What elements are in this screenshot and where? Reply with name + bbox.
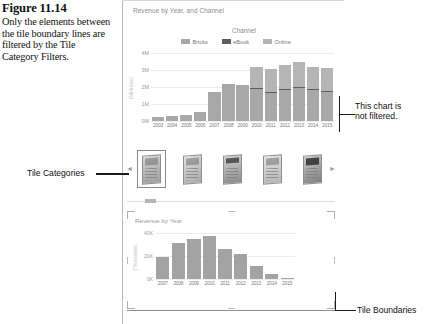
chart-top-bar-segment-bricks — [279, 90, 291, 121]
chart-top-bar-segment-bricks — [166, 116, 178, 121]
chart-top-gridline — [151, 121, 334, 122]
annotation-tile-boundaries: Tile Boundaries — [357, 305, 416, 315]
legend-swatch-bricks — [181, 39, 190, 44]
chart-top-bar[interactable] — [166, 53, 178, 121]
dashboard-panel: Revenue by Year, and Channel Channel Bri… — [123, 1, 339, 322]
chart-top-bar[interactable] — [265, 53, 277, 121]
chart-bottom-x-ticks: 200720082009201020112012201320142015 — [155, 281, 295, 286]
chart-bottom-bar[interactable] — [234, 233, 247, 279]
chart-top-bar-segment-bricks — [152, 117, 164, 121]
chart-bottom-y-ticks: 0K20K40K — [137, 233, 153, 279]
tile-edge-tick-right — [334, 257, 335, 264]
legend-swatch-ebook — [222, 39, 231, 44]
tile-thumbnail-4[interactable] — [259, 152, 285, 186]
chart-bottom-bar[interactable] — [218, 233, 231, 279]
chart-top-bar[interactable] — [293, 53, 305, 121]
chart-top-x-tick: 2005 — [179, 123, 193, 128]
chart-bottom-bar[interactable] — [156, 233, 169, 279]
chart-bottom-y-tick: 0K — [147, 276, 153, 282]
chart-top-bar[interactable] — [321, 53, 333, 121]
tile-thumbnail-2[interactable] — [180, 152, 206, 186]
leader-line-tile-categories — [96, 173, 129, 175]
chart-top-bar[interactable] — [180, 53, 192, 121]
chart-bottom-y-tick: 40K — [144, 230, 153, 236]
annotation-tile-categories: Tile Categories — [27, 168, 84, 178]
chart-top-y-tick: 3M — [142, 67, 150, 73]
scrollbar-thumb[interactable] — [145, 199, 156, 203]
figure-caption-block: Figure 11.14 Only the elements between t… — [2, 1, 112, 62]
chart-top-bar-segment-bricks — [236, 85, 248, 121]
chart-top-x-tick: 2015 — [320, 123, 334, 128]
chart-top-bar[interactable] — [250, 53, 262, 121]
chart-bottom-bar-fill — [218, 249, 231, 279]
leader-line-not-filtered-h — [339, 114, 355, 115]
chart-top-plot: (Millions) 0M1M2M3M4M 200320042005200620… — [123, 53, 339, 137]
chart-top-x-tick: 2006 — [193, 123, 207, 128]
chart-top-bar-segment-online — [279, 65, 291, 89]
chart-bottom-y-tick: 20K — [144, 253, 153, 259]
chart-top-bars — [151, 53, 334, 121]
chart-top-bar[interactable] — [222, 53, 234, 121]
chart-top-x-tick: 2012 — [278, 123, 292, 128]
chart-revenue-by-year: Revenue by Year (Thousands) 0K20K40K 200… — [129, 215, 329, 303]
chart-top-y-tick: 0M — [142, 118, 150, 124]
chart-top-bar-segment-bricks — [222, 84, 234, 121]
chart-bottom-bar[interactable] — [281, 233, 294, 279]
chart-top-bar[interactable] — [208, 53, 220, 121]
tile-edge-tick-left — [127, 257, 128, 264]
chart-bottom-bar[interactable] — [172, 233, 185, 279]
legend-label-bricks: Bricks — [193, 39, 208, 45]
figure-caption-text: Only the elements between the tile bound… — [2, 16, 112, 62]
figure-page: Figure 11.14 Only the elements between t… — [0, 0, 447, 324]
tile-strip-scrollbar[interactable] — [127, 199, 335, 203]
prev-arrow-icon[interactable]: ◄ — [126, 165, 133, 172]
annotation-line-1: This chart is — [355, 101, 401, 111]
leader-line-not-filtered-v — [339, 96, 340, 132]
chart-top-bar[interactable] — [279, 53, 291, 121]
tile-category-filter-strip[interactable]: ◄ ► — [123, 143, 339, 195]
chart-bottom-bar[interactable] — [203, 233, 216, 279]
annotation-chart-not-filtered: This chart is not filtered. — [355, 101, 447, 121]
chart-top-bar-segment-online — [307, 67, 319, 90]
chart-bottom-x-tick: 2011 — [217, 281, 233, 286]
chart-top-bar[interactable] — [152, 53, 164, 121]
chart-top-bar-segment-online — [293, 62, 305, 88]
chart-bottom-bar-fill — [156, 257, 169, 279]
legend-item-ebook[interactable]: eBook — [222, 39, 249, 45]
chart-bottom-bar[interactable] — [187, 233, 200, 279]
scrollbar-track[interactable] — [127, 201, 335, 202]
next-arrow-icon[interactable]: ► — [329, 165, 336, 172]
chart-bottom-bars — [155, 233, 295, 279]
chart-bottom-bar-fill — [281, 278, 294, 279]
chart-top-x-tick: 2010 — [250, 123, 264, 128]
tile-thumbnail-1[interactable] — [137, 150, 166, 188]
chart-top-bar[interactable] — [236, 53, 248, 121]
chart-top-x-tick: 2003 — [151, 123, 165, 128]
chart-top-bar-segment-bricks — [307, 90, 319, 121]
chart-top-bar[interactable] — [194, 53, 206, 121]
legend-label-ebook: eBook — [233, 39, 249, 45]
tile-thumbnail-3[interactable] — [220, 152, 246, 186]
chart-bottom-gridline — [155, 279, 295, 280]
chart-top-x-tick: 2009 — [235, 123, 249, 128]
book-cover-icon — [263, 154, 282, 184]
annotation-line-2: not filtered. — [355, 111, 398, 121]
chart-top-bar-segment-bricks — [321, 92, 333, 121]
chart-bottom-bar[interactable] — [265, 233, 278, 279]
chart-top-y-tick: 2M — [142, 84, 150, 90]
legend-item-online[interactable]: Online — [263, 39, 291, 45]
leader-line-tile-boundaries-v — [335, 292, 336, 311]
chart-top-bar-segment-online — [250, 67, 262, 88]
chart-bottom-bar[interactable] — [250, 233, 263, 279]
chart-bottom-bar-fill — [172, 243, 185, 279]
tile-thumbnail-5[interactable] — [299, 152, 325, 186]
chart-bottom-x-tick: 2014 — [264, 281, 280, 286]
chart-bottom-bar-fill — [203, 236, 216, 279]
chart-top-legend-title: Channel — [123, 27, 339, 34]
legend-item-bricks[interactable]: Bricks — [181, 39, 208, 45]
chart-top-bar[interactable] — [307, 53, 319, 121]
chart-bottom-x-tick: 2009 — [186, 281, 202, 286]
chart-top-y-ticks: 0M1M2M3M4M — [131, 53, 149, 121]
chart-top-bar-segment-bricks — [208, 92, 220, 121]
legend-label-online: Online — [275, 39, 291, 45]
